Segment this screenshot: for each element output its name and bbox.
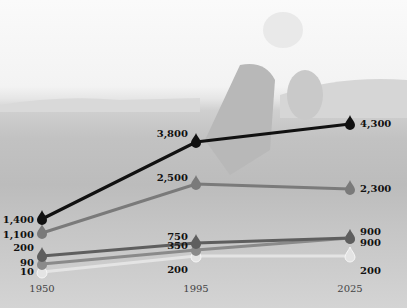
chart-container: 1,4003,8004,3001,1002,5002,3002007509009… (0, 0, 407, 308)
water-drop-icon (345, 180, 355, 195)
data-label: 2,500 (157, 172, 188, 184)
water-drop-icon (37, 224, 47, 239)
data-label: 900 (360, 226, 381, 237)
water-drop-icon (191, 234, 201, 249)
data-label: 900 (360, 237, 381, 248)
data-label: 200 (167, 264, 188, 275)
water-drop-icon (191, 133, 201, 148)
water-drop-icon (37, 210, 47, 225)
data-label: 200 (360, 265, 381, 276)
data-label: 1,400 (3, 214, 34, 226)
water-drop-icon (191, 175, 201, 190)
water-drop-icon (37, 247, 47, 262)
data-label: 350 (167, 240, 188, 251)
x-axis-tick: 1995 (183, 283, 208, 294)
data-label: 1,100 (3, 229, 34, 241)
data-label: 2,300 (360, 183, 391, 195)
x-axis-tick: 1950 (29, 283, 54, 294)
data-label: 200 (13, 242, 34, 253)
data-label: 4,300 (360, 118, 391, 130)
water-drop-icon (345, 115, 355, 130)
line-chart: 1,4003,8004,3001,1002,5002,3002007509009… (0, 0, 407, 308)
data-label: 3,800 (157, 128, 188, 140)
water-drop-icon (345, 247, 355, 262)
water-drop-icon (345, 229, 355, 244)
data-label: 10 (20, 266, 34, 277)
series-line (42, 184, 350, 233)
x-axis-tick: 2025 (337, 283, 362, 294)
